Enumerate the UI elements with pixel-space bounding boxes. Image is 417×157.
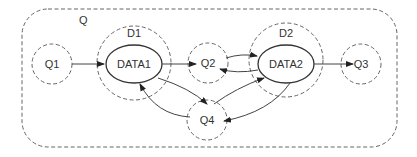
node-data2-label: DATA2 xyxy=(269,58,303,70)
edge-data2-q4 xyxy=(224,83,290,121)
node-q1-label: Q1 xyxy=(45,58,60,70)
node-q3-label: Q3 xyxy=(354,58,369,70)
node-q2-label: Q2 xyxy=(201,57,216,69)
container-q xyxy=(22,9,397,147)
edge-q2-data2 xyxy=(226,55,257,58)
edge-q4-data1 xyxy=(140,84,190,117)
node-data1-label: DATA1 xyxy=(117,58,151,70)
node-q4[interactable]: Q4 xyxy=(187,100,227,140)
node-q4-label: Q4 xyxy=(200,114,215,126)
node-data2[interactable]: DATA2 xyxy=(258,45,314,83)
node-d2-label: D2 xyxy=(279,27,293,39)
node-data1[interactable]: DATA1 xyxy=(106,45,162,83)
diagram-canvas: Q Q1 D1 DATA1 Q2 D2 DATA2 Q3 Q4 xyxy=(0,0,417,157)
node-d1-label: D1 xyxy=(127,27,141,39)
container-q-label: Q xyxy=(79,14,88,26)
node-q1[interactable]: Q1 xyxy=(32,44,72,84)
node-q2[interactable]: Q2 xyxy=(188,43,228,83)
